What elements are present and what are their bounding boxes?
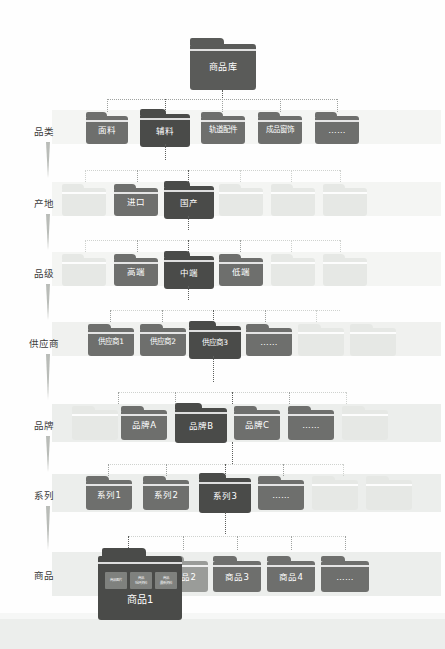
folder-fuliao[interactable]: 辅料 [140, 109, 190, 147]
folder-lip [190, 49, 256, 51]
connector-l6-active-down [225, 512, 226, 534]
folder-tab-icon [102, 548, 146, 556]
folder-body [62, 188, 106, 216]
folder-label: 供应商2 [150, 337, 177, 347]
connector-l7-c4 [291, 536, 292, 550]
connector-l3-c2 [137, 240, 138, 252]
connector-l5-c3 [232, 392, 233, 404]
folder-shangpin-4[interactable]: 商品4 [267, 556, 315, 592]
folder-pinpai-b[interactable]: 品牌B [175, 403, 227, 443]
folder-label: 系列3 [213, 491, 237, 501]
folder-lip [323, 262, 367, 264]
connector-l6-c1 [108, 464, 109, 476]
folder-xilie-ghost-2 [366, 476, 412, 510]
folder-body: 中端 [164, 256, 214, 289]
folder-gaoduan[interactable]: 高端 [114, 254, 158, 286]
connector-l1-c2 [165, 99, 166, 112]
connector-l7-c5 [345, 536, 346, 550]
connector-l3-c6 [340, 240, 341, 252]
connector-l2-c5 [291, 170, 292, 182]
folder-lip [98, 562, 182, 564]
connector-l4-c3 [213, 310, 214, 322]
folder-pinpai-more[interactable]: …… [288, 406, 334, 440]
connector-bus-level2 [85, 170, 340, 171]
folder-lip [114, 192, 158, 194]
folder-lip [143, 484, 189, 486]
product-content-chip-1[interactable]: 商品图片 [105, 572, 127, 589]
folder-chandi-ghost-2 [219, 184, 263, 216]
folder-body [342, 410, 388, 440]
folder-xilie-more[interactable]: …… [258, 476, 304, 510]
folder-guidaopeijian[interactable]: 轨道配件 [201, 112, 245, 144]
connector-l2-c2 [137, 170, 138, 182]
connector-l3-active-down [188, 286, 189, 300]
folder-pinpai-c[interactable]: 品牌C [234, 406, 280, 440]
folder-shangpin-more[interactable]: …… [321, 556, 369, 592]
folder-xilie-1[interactable]: 系列1 [86, 476, 132, 510]
folder-gongyingshang-1[interactable]: 供应商1 [88, 324, 134, 356]
folder-body: 高端 [114, 258, 158, 286]
folder-body: 进口 [114, 188, 158, 216]
folder-lip [321, 565, 369, 567]
folder-body [72, 410, 118, 440]
folder-shangpin-1[interactable]: 商品图片 商品 低环资料 商品 最新资料 商品1 [98, 548, 182, 620]
folder-gongyingshang-2[interactable]: 供应商2 [140, 324, 186, 356]
diagram-canvas: 品类 产地 品级 供应商 品牌 系列 商品 [0, 0, 445, 649]
folder-body: 系列2 [143, 480, 189, 510]
folder-shangpin-3[interactable]: 商品3 [213, 556, 261, 592]
folder-pinji-ghost-2 [271, 254, 315, 286]
folder-lip [315, 120, 359, 122]
folder-body: …… [315, 116, 359, 144]
folder-lip [62, 192, 106, 194]
connector-l5-active-down [232, 442, 233, 464]
folder-pinlei-more[interactable]: …… [315, 112, 359, 144]
folder-lip [234, 414, 280, 416]
folder-diduan[interactable]: 低端 [219, 254, 263, 286]
folder-label: 中端 [180, 268, 198, 278]
folder-jinkou[interactable]: 进口 [114, 184, 158, 216]
folder-label: 轨道配件 [209, 125, 238, 135]
folder-label: 低端 [232, 267, 250, 277]
connector-l3-c5 [291, 240, 292, 252]
folder-zhongduan[interactable]: 中端 [164, 251, 214, 289]
folder-pinpai-a[interactable]: 品牌A [121, 406, 167, 440]
connector-l4-c4 [265, 310, 266, 322]
connector-l7-c3 [237, 536, 238, 550]
product-content-chip-2[interactable]: 商品 低环资料 [130, 572, 152, 589]
folder-xilie-2[interactable]: 系列2 [143, 476, 189, 510]
folder-lip [175, 412, 227, 414]
connector-l2-c6 [340, 170, 341, 182]
folder-body: …… [321, 561, 369, 592]
folder-lip [246, 332, 292, 334]
folder-mianliao[interactable]: 面料 [86, 112, 128, 144]
folder-lip [219, 192, 263, 194]
folder-label: 系列2 [154, 490, 178, 500]
folder-label: 面料 [98, 125, 116, 135]
folder-lip [189, 330, 241, 332]
folder-label: 商品3 [225, 572, 249, 582]
folder-chandi-ghost-4 [323, 184, 367, 216]
folder-chengpinchuangshi[interactable]: 成品窗饰 [258, 112, 302, 144]
folder-body: 成品窗饰 [258, 116, 302, 144]
folder-lip [201, 120, 245, 122]
folder-body: 轨道配件 [201, 116, 245, 144]
folder-guochan[interactable]: 国产 [164, 181, 214, 219]
folder-label: 高端 [127, 267, 145, 277]
connector-l1-c5 [337, 99, 338, 112]
folder-gongyingshang-more[interactable]: …… [246, 324, 292, 356]
folder-label: 系列1 [97, 490, 121, 500]
folder-xilie-3[interactable]: 系列3 [199, 473, 251, 513]
folder-label: …… [302, 420, 319, 430]
folder-lip [199, 482, 251, 484]
folder-gongyingshang-ghost-1 [298, 324, 344, 356]
folder-root[interactable]: 商品库 [190, 38, 256, 90]
folder-lip [271, 262, 315, 264]
folder-body [271, 258, 315, 286]
product-content-chip-3[interactable]: 商品 最新资料 [155, 572, 177, 589]
folder-gongyingshang-3[interactable]: 供应商3 [189, 321, 241, 359]
axis-label-gongyingshang: 供应商 [22, 338, 66, 349]
folder-label: 商品1 [98, 595, 182, 605]
folder-body: 商品4 [267, 561, 315, 592]
folder-body: …… [246, 328, 292, 356]
axis-label-shangpin: 商品 [22, 570, 66, 581]
